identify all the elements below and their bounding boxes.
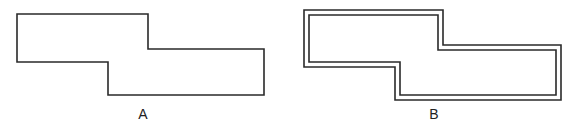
figure-a-shape: [17, 14, 264, 95]
figure-b-label: B: [429, 106, 438, 122]
figure-b-shape: [304, 10, 561, 100]
diagram-canvas: [0, 0, 575, 125]
figure-a-label: A: [138, 106, 147, 122]
